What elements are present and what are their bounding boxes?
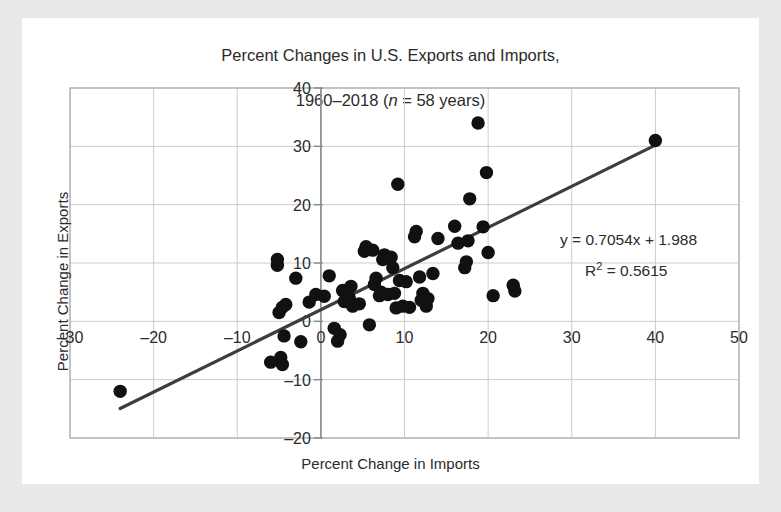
r-squared-label: R2 = 0.5615: [585, 260, 667, 279]
y-tick-label: –10: [284, 372, 311, 389]
data-point: [410, 225, 423, 238]
data-point: [649, 134, 662, 147]
trend-line: [120, 145, 655, 408]
regression-equation-label: y = 0.7054x + 1.988: [560, 231, 697, 248]
x-tick-label: 10: [396, 329, 414, 346]
regression-equation: y = 0.7054x + 1.988 R2 = 0.5615: [560, 231, 697, 279]
data-point: [279, 298, 292, 311]
y-tick-label: 20: [293, 197, 311, 214]
scatter-plot: –30–20–1001020304050 –20–10010203040 y =…: [22, 18, 759, 484]
y-axis-label: Percent Change in Exports: [54, 132, 71, 432]
data-point: [476, 220, 489, 233]
x-tick-labels: –30–20–1001020304050: [57, 329, 748, 346]
data-point: [289, 271, 302, 284]
data-point: [366, 243, 379, 256]
data-point: [271, 253, 284, 266]
figure-card: Percent Changes in U.S. Exports and Impo…: [22, 18, 759, 484]
data-point: [403, 301, 416, 314]
data-point: [277, 329, 290, 342]
data-point: [426, 267, 439, 280]
y-tick-label: –20: [284, 430, 311, 447]
data-point: [481, 246, 494, 259]
data-point: [391, 178, 404, 191]
y-tick-label: 10: [293, 255, 311, 272]
y-tick-label: 30: [293, 138, 311, 155]
x-tick-label: 30: [563, 329, 581, 346]
data-point: [480, 166, 493, 179]
data-point: [323, 269, 336, 282]
data-point: [431, 232, 444, 245]
y-tick-label: 40: [293, 80, 311, 97]
x-axis-label: Percent Change in Imports: [22, 455, 759, 472]
data-point: [421, 292, 434, 305]
x-tick-label: –10: [224, 329, 251, 346]
data-point: [486, 289, 499, 302]
x-tick-label: 0: [316, 329, 325, 346]
data-point: [388, 287, 401, 300]
trend-line-segment: [120, 145, 655, 408]
x-tick-label: –20: [140, 329, 167, 346]
data-point: [333, 328, 346, 341]
data-point: [448, 220, 461, 233]
data-point: [463, 192, 476, 205]
data-point: [471, 116, 484, 129]
data-point: [294, 335, 307, 348]
data-point: [113, 385, 126, 398]
x-tick-label: 40: [646, 329, 664, 346]
data-point: [276, 358, 289, 371]
data-point: [460, 255, 473, 268]
data-point: [461, 234, 474, 247]
data-points: [113, 116, 662, 398]
data-point: [386, 261, 399, 274]
data-point: [318, 290, 331, 303]
x-tick-label: 20: [479, 329, 497, 346]
data-point: [399, 275, 412, 288]
data-point: [363, 318, 376, 331]
data-point: [369, 271, 382, 284]
data-point: [344, 280, 357, 293]
data-point: [508, 284, 521, 297]
x-tick-label: 50: [730, 329, 748, 346]
data-point: [413, 270, 426, 283]
data-point: [353, 297, 366, 310]
